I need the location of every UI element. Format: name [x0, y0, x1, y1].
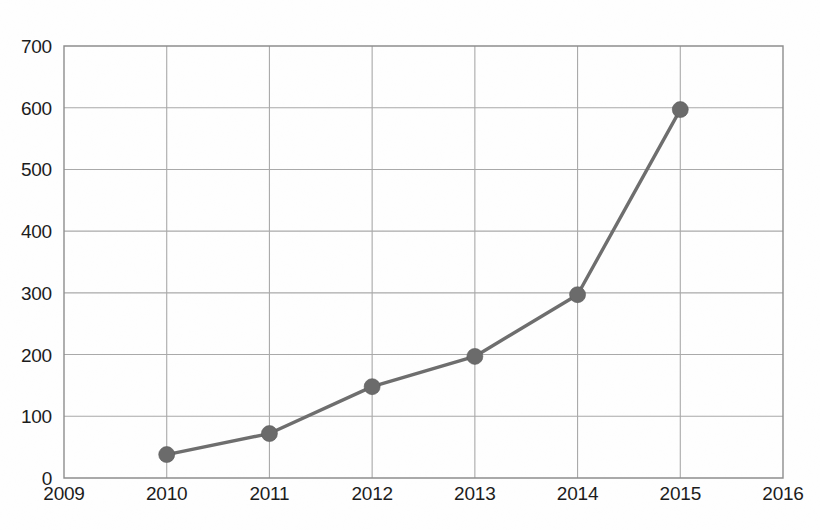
chart-canvas: 0100200300400500600700 20092010201120122… [0, 0, 820, 530]
data-point-marker: 2010: 38 [159, 447, 175, 463]
x-axis-tick-label: 2010 [146, 483, 187, 504]
y-axis-tick-label: 400 [21, 221, 52, 242]
x-axis-tick-label: 2016 [762, 483, 803, 504]
x-axis-tick-label: 2009 [43, 483, 84, 504]
data-point-marker: 2013: 197 [467, 348, 483, 364]
x-axis-tick-label: 2015 [660, 483, 701, 504]
y-axis-tick-label: 700 [21, 36, 52, 57]
y-axis-tick-label: 500 [21, 159, 52, 180]
y-axis-tick-label: 600 [21, 98, 52, 119]
x-axis-tick-label: 2012 [351, 483, 392, 504]
line-chart-figure: 0100200300400500600700 20092010201120122… [0, 0, 820, 530]
y-axis-tick-label: 100 [21, 406, 52, 427]
series-line [167, 110, 681, 455]
x-axis-tick-label: 2013 [454, 483, 495, 504]
series-markers: 2010: 382011: 722012: 1482013: 1972014: … [159, 102, 689, 463]
data-point-marker: 2014: 297 [570, 287, 586, 303]
y-axis-tick-labels: 0100200300400500600700 [21, 36, 52, 489]
x-axis-tick-label: 2011 [249, 483, 289, 504]
y-axis-tick-label: 300 [21, 283, 52, 304]
data-point-marker: 2015: 597 [672, 102, 688, 118]
x-axis-tick-label: 2014 [557, 483, 599, 504]
vertical-gridlines [167, 46, 681, 478]
y-axis-tick-label: 200 [21, 345, 52, 366]
data-point-marker: 2011: 72 [261, 426, 277, 442]
x-axis-tick-labels: 20092010201120122013201420152016 [43, 483, 803, 504]
data-point-marker: 2012: 148 [364, 379, 380, 395]
